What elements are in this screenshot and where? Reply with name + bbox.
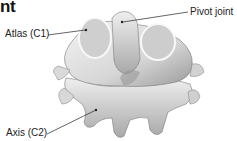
label-pivot-joint: Pivot joint xyxy=(190,6,233,17)
label-atlas: Atlas (C1) xyxy=(5,28,49,39)
vertebrae-illustration xyxy=(0,0,237,141)
axis-vertebra xyxy=(59,78,200,137)
label-axis: Axis (C2) xyxy=(6,127,47,138)
